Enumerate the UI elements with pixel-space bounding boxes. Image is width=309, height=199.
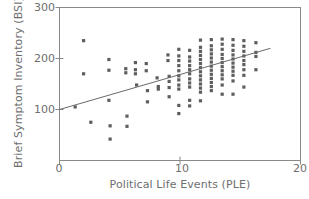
data-point bbox=[210, 69, 213, 72]
data-point bbox=[221, 93, 224, 96]
data-point bbox=[231, 74, 234, 77]
data-point bbox=[231, 53, 234, 56]
data-point bbox=[177, 88, 180, 91]
data-point bbox=[134, 72, 137, 75]
data-point bbox=[221, 77, 224, 80]
data-point bbox=[242, 85, 245, 88]
trend-line bbox=[60, 48, 271, 109]
data-point bbox=[199, 70, 202, 73]
data-point bbox=[210, 89, 213, 92]
data-point bbox=[134, 61, 137, 64]
data-point bbox=[177, 59, 180, 62]
data-point bbox=[210, 60, 213, 63]
data-point bbox=[145, 69, 148, 72]
data-point bbox=[125, 125, 128, 128]
data-point bbox=[231, 61, 234, 64]
data-point bbox=[199, 91, 202, 94]
data-point bbox=[124, 67, 127, 70]
data-point bbox=[199, 46, 202, 49]
data-point bbox=[231, 93, 234, 96]
data-point bbox=[166, 59, 169, 62]
data-point bbox=[221, 73, 224, 76]
data-point bbox=[188, 85, 191, 88]
data-point bbox=[199, 58, 202, 61]
data-point bbox=[188, 49, 191, 52]
data-point bbox=[107, 69, 110, 72]
data-point bbox=[221, 57, 224, 60]
data-point bbox=[166, 53, 169, 56]
data-point bbox=[199, 54, 202, 57]
data-point bbox=[221, 69, 224, 72]
data-point bbox=[221, 83, 224, 86]
data-point bbox=[188, 72, 191, 75]
scatter-plot-figure: Brief Symptom Inventory (BSI) 300 200 10… bbox=[0, 0, 309, 199]
data-point bbox=[199, 78, 202, 81]
data-point bbox=[82, 72, 85, 75]
data-point bbox=[188, 104, 191, 107]
data-point bbox=[242, 45, 245, 48]
data-point bbox=[242, 74, 245, 77]
plot-area bbox=[0, 0, 309, 199]
data-point bbox=[242, 59, 245, 62]
data-point bbox=[199, 39, 202, 42]
data-point bbox=[210, 85, 213, 88]
data-point bbox=[199, 62, 202, 65]
data-point bbox=[231, 70, 234, 73]
data-point bbox=[82, 39, 85, 42]
data-point bbox=[254, 55, 257, 58]
data-point bbox=[107, 58, 110, 61]
data-point bbox=[188, 81, 191, 84]
data-point bbox=[242, 63, 245, 66]
data-point bbox=[188, 64, 191, 67]
data-point bbox=[231, 79, 234, 82]
data-point bbox=[199, 99, 202, 102]
data-point bbox=[199, 82, 202, 85]
data-point bbox=[210, 48, 213, 51]
data-point bbox=[146, 100, 149, 103]
data-point bbox=[74, 105, 77, 108]
data-point bbox=[188, 99, 191, 102]
data-point bbox=[188, 55, 191, 58]
data-point bbox=[146, 89, 149, 92]
data-point bbox=[210, 44, 213, 47]
data-point bbox=[177, 83, 180, 86]
data-point bbox=[125, 115, 128, 118]
data-point bbox=[210, 52, 213, 55]
data-point bbox=[177, 69, 180, 72]
data-point bbox=[89, 121, 92, 124]
data-point bbox=[145, 62, 148, 65]
data-point bbox=[231, 38, 234, 41]
data-point bbox=[124, 71, 127, 74]
data-point bbox=[242, 39, 245, 42]
data-point bbox=[177, 78, 180, 81]
data-point bbox=[199, 74, 202, 77]
data-points bbox=[74, 38, 258, 141]
data-point bbox=[177, 104, 180, 107]
data-point bbox=[221, 48, 224, 51]
data-point bbox=[177, 48, 180, 51]
data-point bbox=[210, 81, 213, 84]
data-point bbox=[135, 83, 138, 86]
data-point bbox=[231, 49, 234, 52]
data-point bbox=[221, 38, 224, 41]
data-point bbox=[168, 86, 171, 89]
data-point bbox=[221, 65, 224, 68]
data-point bbox=[199, 86, 202, 89]
data-point bbox=[177, 112, 180, 115]
data-point bbox=[231, 44, 234, 47]
data-point bbox=[177, 64, 180, 67]
data-point bbox=[254, 68, 257, 71]
regression-line bbox=[60, 48, 271, 109]
data-point bbox=[210, 38, 213, 41]
data-point bbox=[210, 77, 213, 80]
data-point bbox=[188, 68, 191, 71]
data-point bbox=[210, 56, 213, 59]
data-point bbox=[231, 66, 234, 69]
data-point bbox=[177, 54, 180, 57]
data-point bbox=[254, 41, 257, 44]
data-point bbox=[168, 80, 171, 83]
data-point bbox=[199, 50, 202, 53]
data-point bbox=[109, 124, 112, 127]
data-point bbox=[109, 137, 112, 140]
data-point bbox=[221, 53, 224, 56]
